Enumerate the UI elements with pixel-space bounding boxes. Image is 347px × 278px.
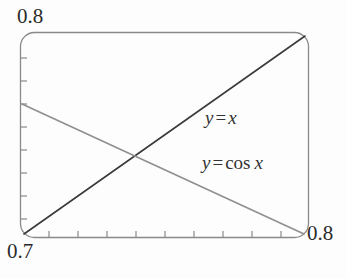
figure-root: 0.8 0.7 0.8 bbox=[0, 0, 347, 278]
cosine-operator: = bbox=[210, 152, 225, 173]
plot-canvas bbox=[0, 0, 347, 278]
identity-rhs: x bbox=[228, 107, 236, 128]
cosine-argument: x bbox=[250, 152, 262, 173]
curve-label-identity: y=x bbox=[205, 108, 237, 127]
curve-label-cosine: y=cosx bbox=[202, 153, 263, 172]
y-axis-ticks bbox=[21, 58, 28, 219]
identity-operator: = bbox=[213, 107, 228, 128]
cosine-function-name: cos bbox=[225, 152, 250, 173]
x-axis-ticks bbox=[49, 231, 281, 238]
curve-identity bbox=[24, 36, 305, 234]
